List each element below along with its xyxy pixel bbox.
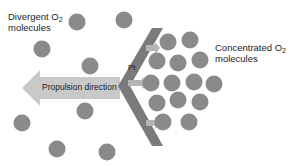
o2-molecule xyxy=(34,41,51,58)
o2-molecule xyxy=(170,92,187,109)
o2-molecule xyxy=(170,55,187,72)
o2-molecule xyxy=(206,76,223,93)
o2-molecule xyxy=(149,95,166,112)
o2-molecule xyxy=(69,14,86,31)
o2-molecule xyxy=(99,144,116,161)
o2-molecule xyxy=(186,74,203,91)
pt-label: Pt xyxy=(128,62,136,73)
o2-molecule xyxy=(164,75,181,92)
o2-molecule xyxy=(182,32,199,49)
o2-molecule xyxy=(143,75,160,92)
o2-molecule xyxy=(82,58,99,75)
o2-molecule xyxy=(160,34,177,51)
o2-molecule xyxy=(116,12,133,29)
o2-molecule xyxy=(192,94,209,111)
o2-molecule xyxy=(155,114,172,131)
o2-molecule xyxy=(77,103,94,120)
o2-molecule xyxy=(49,141,66,158)
divergent-label: Divergent O2 molecules xyxy=(8,11,63,33)
o2-molecule xyxy=(181,114,198,131)
o2-molecule xyxy=(192,52,209,69)
propulsion-label: Propulsion direction xyxy=(42,82,117,93)
o2-molecule xyxy=(149,53,166,70)
o2-molecule xyxy=(14,115,31,132)
concentrated-label: Concentrated O2 molecules xyxy=(215,42,286,64)
